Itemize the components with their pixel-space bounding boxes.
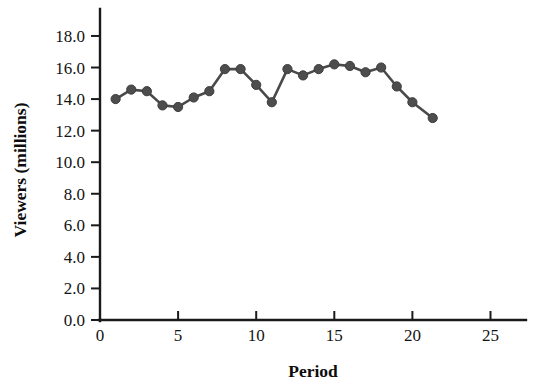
y-axis-title: Viewers (millions) [10,102,30,237]
y-tick-label: 10.0 [55,153,85,172]
y-tick-label: 16.0 [55,59,85,78]
x-tick-label: 25 [482,326,499,345]
data-point [330,60,339,69]
data-point [408,98,417,107]
data-point [361,68,370,77]
line-chart: 0.02.04.06.08.010.012.014.016.018.0 0510… [0,0,538,391]
data-point [220,65,229,74]
data-point [174,102,183,111]
data-point [345,61,354,70]
series-markers-viewers [111,60,437,123]
data-point [142,87,151,96]
x-tick-label: 15 [326,326,343,345]
y-tick-label: 0.0 [64,311,85,330]
y-tick-label: 12.0 [55,122,85,141]
y-tick-label: 14.0 [55,90,85,109]
x-tick-label: 5 [174,326,183,345]
x-tick-label: 20 [404,326,421,345]
x-tick-label: 10 [248,326,265,345]
data-point [298,71,307,80]
x-axis-title: Period [288,361,338,381]
y-tick-label: 18.0 [55,27,85,46]
data-point [314,65,323,74]
data-point [428,113,437,122]
y-tick-label: 4.0 [64,248,85,267]
data-point [158,101,167,110]
data-point [189,93,198,102]
y-tick-label: 8.0 [64,185,85,204]
data-point [252,80,261,89]
y-tick-label: 2.0 [64,279,85,298]
data-point [267,98,276,107]
data-point [377,63,386,72]
chart-container: 0.02.04.06.08.010.012.014.016.018.0 0510… [0,0,538,391]
data-point [236,65,245,74]
data-point [392,82,401,91]
data-point [111,94,120,103]
x-tick-label: 0 [96,326,105,345]
data-point [205,87,214,96]
y-axis-ticks: 0.02.04.06.08.010.012.014.016.018.0 [55,27,100,330]
data-point [283,65,292,74]
y-tick-label: 6.0 [64,216,85,235]
x-axis-ticks: 0510152025 [96,311,499,345]
data-point [127,85,136,94]
